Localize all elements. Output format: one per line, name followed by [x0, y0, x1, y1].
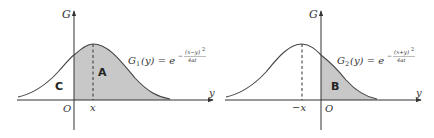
region-a-label: A	[98, 66, 107, 79]
y-axis-label: y	[208, 87, 215, 98]
origin-label: O	[325, 103, 333, 114]
svg-text:4αt: 4αt	[187, 57, 198, 63]
svg-text:2: 2	[345, 60, 349, 68]
svg-text:4αt: 4αt	[396, 57, 407, 63]
svg-text:G: G	[128, 55, 136, 66]
svg-text:G: G	[337, 55, 345, 66]
formula-g2: G 2 (y) = e − (x+y) 2 4αt	[337, 46, 415, 68]
region-b-label: B	[331, 80, 339, 93]
marker-neg-x-label: −x	[292, 102, 306, 113]
left-panel: G y O x C A G 1 (y) = e − (x−y) 2 4αt	[17, 8, 215, 130]
svg-text:2: 2	[202, 46, 205, 52]
y-axis-label: y	[415, 87, 422, 98]
origin-label: O	[63, 103, 71, 114]
svg-text:2: 2	[411, 46, 414, 52]
formula-g1: G 1 (y) = e − (x−y) 2 4αt	[128, 46, 206, 68]
g-axis-label: G	[309, 8, 318, 21]
svg-text:(x+y): (x+y)	[394, 49, 409, 56]
svg-text:−: −	[387, 52, 392, 59]
svg-text:−: −	[178, 52, 183, 59]
svg-text:1: 1	[136, 60, 140, 68]
right-panel: G y O −x B G 2 (y) = e − (x+y) 2 4αt	[225, 8, 422, 130]
marker-x-label: x	[90, 102, 96, 113]
region-c-label: C	[55, 80, 63, 93]
region-a-shading	[74, 44, 170, 100]
svg-text:(y) = e: (y) = e	[141, 55, 175, 66]
diagram-canvas: G y O x C A G 1 (y) = e − (x−y) 2 4αt G …	[0, 0, 434, 138]
g-axis-label: G	[62, 8, 71, 21]
svg-text:(x−y): (x−y)	[185, 49, 200, 56]
svg-text:(y) = e: (y) = e	[350, 55, 384, 66]
